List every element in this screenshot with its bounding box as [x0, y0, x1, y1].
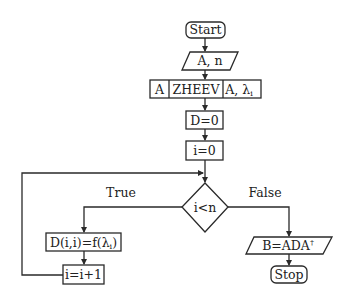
- output-node: B=ADA†: [246, 237, 332, 254]
- i-init-label: i=0: [193, 143, 215, 158]
- condition-node: i<n: [182, 183, 228, 232]
- zheev-name-label: ZHEEV: [173, 82, 221, 97]
- condition-label: i<n: [194, 200, 217, 215]
- input-node: A, n: [182, 52, 238, 70]
- input-label: A, n: [196, 53, 222, 68]
- flowchart: Start A, n A ZHEEV A, λi D=0 i=0 i<n Tru…: [0, 0, 348, 302]
- zheev-input-label: A: [154, 82, 165, 97]
- true-label: True: [106, 185, 136, 200]
- zheev-node: A ZHEEV A, λi: [150, 80, 261, 98]
- d-init-label: D=0: [190, 113, 218, 128]
- assign-node: D(i,i)=f(λi): [46, 233, 121, 251]
- output-label: B=ADA†: [262, 238, 314, 253]
- zheev-output-label: A, λi: [224, 82, 253, 98]
- false-label: False: [248, 185, 281, 200]
- increment-label: i=i+1: [65, 267, 102, 282]
- i-init-node: i=0: [186, 141, 223, 160]
- start-node: Start: [186, 22, 225, 38]
- edge-false: [228, 207, 289, 236]
- edge-true: [84, 207, 182, 232]
- assign-label: D(i,i)=f(λi): [50, 235, 117, 251]
- increment-node: i=i+1: [63, 265, 104, 284]
- d-init-node: D=0: [186, 111, 223, 129]
- stop-node: Stop: [271, 266, 307, 283]
- start-label: Start: [189, 22, 221, 37]
- stop-label: Stop: [274, 267, 303, 282]
